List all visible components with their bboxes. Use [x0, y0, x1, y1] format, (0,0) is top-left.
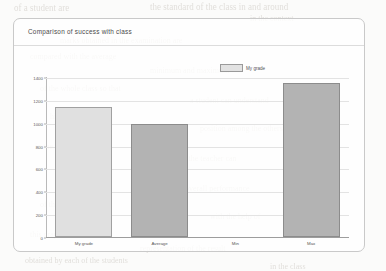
y-tick-mark	[44, 238, 46, 239]
y-axis-tick-label: 1200	[33, 98, 43, 103]
y-axis-tick-label: 1400	[33, 76, 43, 81]
bar-group: Average	[122, 76, 198, 237]
y-axis-tick-label: 0	[41, 236, 43, 241]
bar-group: My grade	[46, 76, 122, 237]
x-axis-tick-label: My grade	[46, 241, 122, 246]
legend-label-my-grade: My grade	[246, 66, 265, 71]
plot-area: 0200400600800100012001400My gradeAverage…	[46, 77, 349, 238]
x-axis-tick-label: Min	[198, 241, 274, 246]
background-ghost-text-line: in the class	[270, 262, 306, 271]
x-axis-tick-label: Max	[273, 241, 349, 246]
y-axis-tick-label: 1000	[33, 121, 43, 126]
bar-my-grade[interactable]	[55, 107, 112, 237]
background-ghost-text-line: obtained by each of the students	[25, 256, 128, 266]
bar-average[interactable]	[131, 124, 188, 237]
chart-legend: My grade	[220, 64, 265, 72]
bar-group: Max	[273, 76, 349, 237]
y-axis-tick-label: 800	[36, 144, 43, 149]
y-axis-tick-label: 400	[36, 190, 43, 195]
x-axis-line	[46, 237, 349, 238]
background-ghost-text-line: of a student are	[14, 3, 69, 14]
x-axis-tick-label: Average	[122, 241, 198, 246]
title-divider	[14, 45, 364, 46]
bar-group: Min	[198, 76, 274, 237]
chart-title: Comparison of success with class	[28, 28, 132, 35]
background-ghost-text-line: the standard of the class in and around	[150, 2, 288, 13]
chart-panel: Comparison of success with class My grad…	[13, 18, 365, 252]
legend-swatch-my-grade	[220, 64, 243, 72]
y-axis-tick-label: 200	[36, 213, 43, 218]
y-axis-tick-label: 600	[36, 167, 43, 172]
bar-max[interactable]	[283, 83, 340, 237]
